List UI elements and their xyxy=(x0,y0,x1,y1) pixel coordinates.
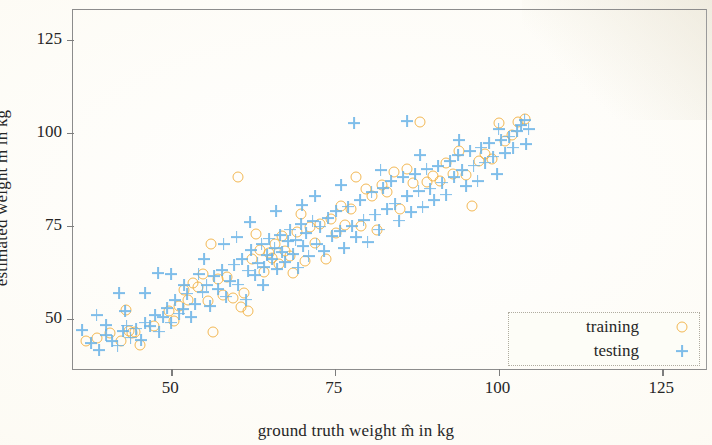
scatter-point-testing xyxy=(197,286,209,298)
scatter-point-training xyxy=(243,305,254,316)
scatter-point-testing xyxy=(258,261,270,273)
scatter-point-training xyxy=(163,306,174,317)
scatter-point-testing xyxy=(475,142,487,154)
scatter-point-testing xyxy=(366,186,378,198)
scatter-point-testing xyxy=(76,324,88,336)
scatter-point-training xyxy=(340,220,351,231)
scatter-point-testing xyxy=(483,137,495,149)
legend-item-testing[interactable]: testing xyxy=(509,339,699,363)
scatter-point-testing xyxy=(252,257,264,269)
scatter-point-training xyxy=(235,301,246,312)
scatter-point-training xyxy=(255,244,266,255)
legend-item-training[interactable]: training xyxy=(509,315,699,339)
scatter-point-testing xyxy=(414,149,426,161)
y-tick-label: 50 xyxy=(10,308,62,328)
scatter-point-testing xyxy=(193,268,205,280)
scatter-point-training xyxy=(447,168,458,179)
scatter-point-training xyxy=(414,116,425,127)
scatter-point-testing xyxy=(397,171,409,183)
scatter-point-testing xyxy=(173,308,185,320)
scatter-point-training xyxy=(361,183,372,194)
scatter-point-testing xyxy=(342,201,354,213)
scatter-point-training xyxy=(421,176,432,187)
scatter-point-testing xyxy=(314,221,326,233)
scatter-point-training xyxy=(213,274,224,285)
scatter-point-testing xyxy=(208,270,220,282)
scatter-point-testing xyxy=(249,269,261,281)
x-axis-title: ground truth weight m̂ in kg xyxy=(0,421,712,441)
scatter-point-testing xyxy=(189,298,201,310)
scatter-point-testing xyxy=(112,340,124,352)
scatter-point-training xyxy=(174,301,185,312)
scatter-point-testing xyxy=(493,123,505,135)
legend-swatch-circle-icon xyxy=(675,320,689,334)
scatter-point-testing xyxy=(220,291,232,303)
scatter-point-testing xyxy=(300,227,312,239)
scatter-point-testing xyxy=(405,206,417,218)
scatter-point-testing xyxy=(282,235,294,247)
scatter-point-training xyxy=(376,179,387,190)
scatter-point-training xyxy=(356,220,367,231)
x-tick-label: 75 xyxy=(325,378,342,398)
scatter-point-testing xyxy=(335,179,347,191)
y-tick-label: 125 xyxy=(10,29,62,49)
scatter-point-training xyxy=(486,153,497,164)
scatter-point-testing xyxy=(468,160,480,172)
scatter-point-testing xyxy=(401,190,413,202)
scatter-point-testing xyxy=(354,194,366,206)
scatter-point-testing xyxy=(284,224,296,236)
scatter-point-training xyxy=(325,214,336,225)
scatter-point-testing xyxy=(113,287,125,299)
scatter-point-testing xyxy=(224,275,236,287)
scatter-point-testing xyxy=(303,250,315,262)
scatter-point-testing xyxy=(201,279,213,291)
scatter-point-training xyxy=(345,204,356,215)
scatter-point-training xyxy=(193,281,204,292)
scatter-point-training xyxy=(291,226,302,237)
scatter-point-testing xyxy=(346,220,358,232)
scatter-point-testing xyxy=(218,238,230,250)
scatter-point-testing xyxy=(271,263,283,275)
scatter-point-testing xyxy=(198,253,210,265)
scatter-point-testing xyxy=(216,264,228,276)
scatter-point-testing xyxy=(385,175,397,187)
scatter-point-training xyxy=(129,326,140,337)
scatter-point-testing xyxy=(287,248,299,260)
scatter-point-testing xyxy=(369,209,381,221)
scatter-point-testing xyxy=(279,256,291,268)
figure-root: estimated weight m̃ in kg ground truth w… xyxy=(0,0,712,445)
scatter-point-testing xyxy=(519,114,531,126)
scatter-point-testing xyxy=(409,168,421,180)
scatter-point-testing xyxy=(157,311,169,323)
scatter-point-testing xyxy=(334,225,346,237)
scatter-point-training xyxy=(217,290,228,301)
legend: training testing xyxy=(508,312,700,366)
scatter-point-testing xyxy=(389,198,401,210)
scatter-point-testing xyxy=(85,337,97,349)
scatter-point-training xyxy=(232,172,243,183)
scatter-point-testing xyxy=(117,325,129,337)
scatter-point-testing xyxy=(242,265,254,277)
y-tick-label: 100 xyxy=(10,122,62,142)
scatter-point-testing xyxy=(507,142,519,154)
scatter-point-testing xyxy=(495,134,507,146)
scatter-point-testing xyxy=(177,303,189,315)
scatter-point-training xyxy=(81,336,92,347)
scatter-point-testing xyxy=(326,230,338,242)
scatter-point-testing xyxy=(375,164,387,176)
scatter-point-testing xyxy=(523,123,535,135)
scatter-point-testing xyxy=(153,326,165,338)
x-axis-title-text: ground truth weight m̂ in kg xyxy=(258,421,455,440)
scatter-point-testing xyxy=(269,242,281,254)
scatter-point-training xyxy=(134,339,145,350)
x-tick-mark xyxy=(171,369,173,376)
scatter-point-testing xyxy=(401,115,413,127)
scatter-point-testing xyxy=(428,194,440,206)
scatter-point-testing xyxy=(413,185,425,197)
y-tick-label: 75 xyxy=(10,215,62,235)
scatter-point-training xyxy=(238,287,249,298)
scatter-point-training xyxy=(371,225,382,236)
scatter-point-testing xyxy=(307,215,319,227)
scatter-point-testing xyxy=(93,344,105,356)
scatter-point-training xyxy=(287,267,298,278)
